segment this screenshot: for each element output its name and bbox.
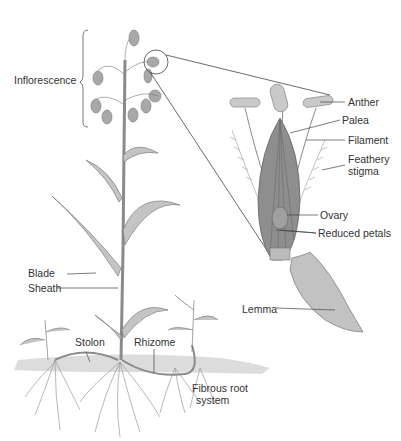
label-sheath: Sheath [28,282,61,294]
leader-lines [57,102,345,373]
label-palea: Palea [342,114,369,126]
leaves [20,147,218,360]
lemma [290,252,363,332]
inflorescence-bracket [80,30,88,127]
label-inflorescence: Inflorescence [14,74,76,86]
ovary [272,207,288,229]
flower-base [270,248,290,260]
label-system: system [196,394,229,406]
label-blade: Blade [28,267,55,279]
label-fibrous-root: Fibrous root [192,382,248,394]
label-anther: Anther [348,96,379,108]
label-lemma: Lemma [242,303,277,315]
label-rhizome: Rhizome [134,336,175,348]
label-filament: Filament [348,134,388,146]
label-reduced-petals: Reduced petals [318,227,391,239]
grass-plant-diagram: Inflorescence Anther Palea Filament Feat… [0,0,401,441]
label-stigma: stigma [348,165,379,177]
label-feathery: Feathery [348,153,389,165]
label-ovary: Ovary [320,209,348,221]
label-stolon: Stolon [75,336,105,348]
main-stem [121,60,125,360]
